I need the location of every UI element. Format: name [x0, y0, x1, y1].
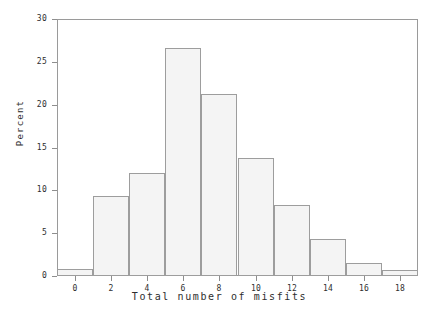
- y-axis-title: Percent: [15, 83, 25, 163]
- x-axis-tick: [256, 276, 257, 281]
- x-axis-tick: [328, 276, 329, 281]
- y-axis-tick: [52, 233, 57, 234]
- x-axis-tick: [292, 276, 293, 281]
- y-axis-tick-label: 10: [25, 185, 47, 194]
- x-axis-tick: [111, 276, 112, 281]
- histogram-bar: [310, 239, 346, 276]
- x-axis-title: Total number of misfits: [0, 291, 439, 302]
- y-axis-tick: [52, 62, 57, 63]
- y-axis-tick: [52, 19, 57, 20]
- y-axis-tick-label: 25: [25, 57, 47, 66]
- histogram-bar: [346, 263, 382, 276]
- x-axis-tick: [400, 276, 401, 281]
- y-axis-tick-label: 20: [25, 100, 47, 109]
- histogram-bar: [165, 48, 201, 276]
- x-axis-tick: [364, 276, 365, 281]
- x-axis-tick: [219, 276, 220, 281]
- y-axis-tick-label: 0: [25, 271, 47, 280]
- y-axis-tick-label: 30: [25, 14, 47, 23]
- histogram-bar: [93, 196, 129, 276]
- histogram-bar: [238, 158, 274, 276]
- y-axis-tick: [52, 105, 57, 106]
- y-axis-tick: [52, 276, 57, 277]
- y-axis-tick-label: 15: [25, 143, 47, 152]
- histogram-bar: [274, 205, 310, 276]
- x-axis-tick: [183, 276, 184, 281]
- y-axis-tick: [52, 148, 57, 149]
- bars-layer: [57, 19, 418, 276]
- histogram-bar: [57, 269, 93, 276]
- x-axis-tick: [147, 276, 148, 281]
- x-axis-tick: [75, 276, 76, 281]
- y-axis-tick: [52, 190, 57, 191]
- y-axis-tick-label: 5: [25, 228, 47, 237]
- histogram-figure: 051015202530 024681012141618 Percent Tot…: [0, 0, 439, 319]
- histogram-bar: [201, 94, 237, 276]
- histogram-bar: [129, 173, 165, 276]
